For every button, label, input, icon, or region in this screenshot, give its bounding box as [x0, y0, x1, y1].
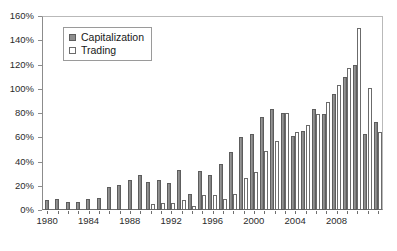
bar-trading: [368, 88, 372, 210]
bar-capitalization: [301, 131, 305, 210]
bar-trading: [202, 195, 206, 210]
x-tick-label: 1996: [202, 216, 223, 226]
bar-trading: [295, 132, 299, 210]
x-tick-mark: [78, 211, 79, 214]
bar-trading: [378, 132, 382, 210]
bar-trading: [151, 204, 155, 210]
x-tick-mark: [357, 211, 358, 214]
x-tick-mark: [213, 211, 214, 214]
y-axis: 0%20%40%60%80%100%120%140%160%: [0, 0, 42, 251]
x-tick-mark: [58, 211, 59, 214]
bar-capitalization: [188, 194, 192, 210]
bar-capitalization: [374, 122, 378, 211]
x-tick-label: 1992: [161, 216, 182, 226]
x-tick-mark: [130, 211, 131, 214]
bar-capitalization: [55, 199, 59, 210]
bar-capitalization: [208, 175, 212, 210]
bar-group: [238, 16, 248, 210]
x-tick-mark: [68, 211, 69, 214]
bar-trading: [233, 194, 237, 210]
bar-trading: [223, 199, 227, 210]
x-tick-mark: [326, 211, 327, 214]
x-tick-label: 2000: [243, 216, 264, 226]
bar-group: [156, 16, 166, 210]
bar-capitalization: [312, 109, 316, 210]
x-tick-mark: [233, 211, 234, 214]
bar-group: [259, 16, 269, 210]
legend-swatch-trading-icon: [69, 47, 76, 54]
bar-capitalization: [97, 198, 101, 210]
chart-legend: Capitalization Trading: [63, 27, 152, 61]
bar-group: [342, 16, 352, 210]
x-tick-mark: [223, 211, 224, 214]
bar-group: [52, 16, 62, 210]
bar-group: [187, 16, 197, 210]
y-tick-label: 20%: [15, 181, 34, 191]
bar-capitalization: [239, 137, 243, 210]
bar-capitalization: [219, 164, 223, 210]
bar-group: [280, 16, 290, 210]
x-tick-mark: [264, 211, 265, 214]
y-tick-label: 100%: [10, 84, 34, 94]
x-tick-mark: [109, 211, 110, 214]
bar-capitalization: [229, 152, 233, 210]
x-tick-mark: [89, 211, 90, 214]
x-tick-mark: [120, 211, 121, 214]
bar-group: [321, 16, 331, 210]
bar-capitalization: [291, 136, 295, 210]
bar-group: [42, 16, 52, 210]
x-tick-mark: [275, 211, 276, 214]
bar-capitalization: [250, 134, 254, 210]
x-tick-mark: [171, 211, 172, 214]
bar-capitalization: [332, 94, 336, 210]
x-tick-mark: [285, 211, 286, 214]
bar-trading: [326, 102, 330, 210]
x-tick-mark: [378, 211, 379, 214]
bar-trading: [182, 200, 186, 210]
x-tick-mark: [140, 211, 141, 214]
bar-capitalization: [117, 185, 121, 210]
bar-capitalization: [281, 113, 285, 210]
bar-capitalization: [353, 65, 357, 211]
bar-group: [166, 16, 176, 210]
bar-capitalization: [177, 170, 181, 210]
bar-group: [228, 16, 238, 210]
bar-capitalization: [198, 171, 202, 210]
bar-group: [207, 16, 217, 210]
x-tick-label: 1988: [119, 216, 140, 226]
bar-capitalization: [343, 77, 347, 210]
x-tick-label: 1980: [37, 216, 58, 226]
bar-group: [290, 16, 300, 210]
y-tick-label: 40%: [15, 157, 34, 167]
bar-trading: [254, 172, 258, 210]
y-tick-label: 120%: [10, 60, 34, 70]
x-tick-mark: [161, 211, 162, 214]
x-tick-mark: [244, 211, 245, 214]
bar-trading: [264, 151, 268, 210]
x-tick-label: 2008: [326, 216, 347, 226]
legend-item-capitalization: Capitalization: [69, 31, 144, 44]
bar-capitalization: [322, 114, 326, 210]
x-tick-mark: [316, 211, 317, 214]
x-tick-mark: [151, 211, 152, 214]
y-tick-label: 0%: [20, 205, 34, 215]
bar-capitalization: [86, 199, 90, 210]
legend-label-trading: Trading: [81, 45, 116, 56]
bar-capitalization: [167, 183, 171, 210]
x-tick-mark: [306, 211, 307, 214]
bar-trading: [306, 125, 310, 210]
bar-capitalization: [128, 180, 132, 210]
bar-group: [300, 16, 310, 210]
bar-group: [352, 16, 362, 210]
bar-capitalization: [45, 200, 49, 210]
bar-group: [249, 16, 259, 210]
x-tick-mark: [192, 211, 193, 214]
bar-capitalization: [363, 134, 367, 210]
bar-capitalization: [260, 117, 264, 210]
bar-capitalization: [76, 202, 80, 210]
bar-trading: [161, 203, 165, 210]
bar-trading: [285, 113, 289, 210]
x-axis: 19801984198819921996200020042008: [42, 211, 383, 251]
bar-trading: [244, 178, 248, 210]
x-tick-mark: [368, 211, 369, 214]
